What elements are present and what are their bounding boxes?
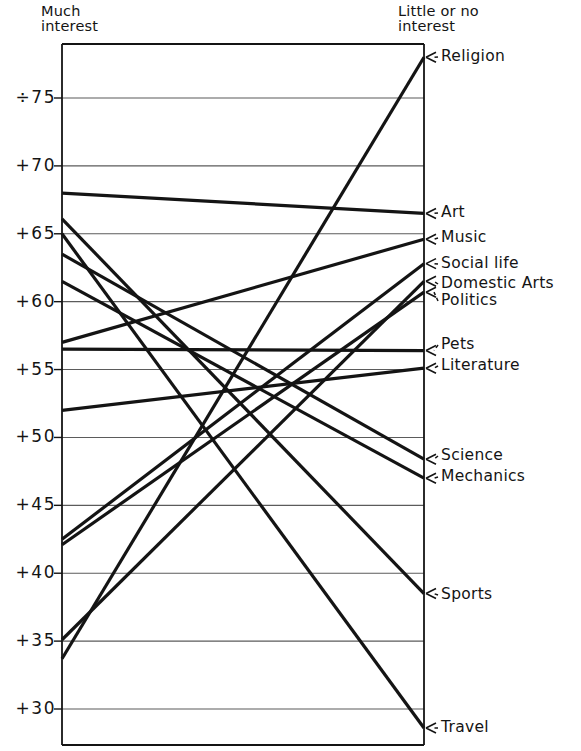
series-line-social-life — [62, 264, 424, 540]
series-label-religion: Religion — [441, 47, 505, 65]
leader-line — [434, 238, 438, 239]
y-tick-label-30: +30 — [0, 698, 56, 718]
label-leader-arrows-group — [426, 52, 438, 733]
y-tick-label-70: +70 — [0, 155, 56, 175]
series-label-domestic-arts: Domestic Arts — [441, 274, 554, 292]
series-label-literature: Literature — [441, 356, 520, 374]
series-label-mechanics: Mechanics — [441, 467, 525, 485]
leader-arrowhead — [426, 259, 436, 269]
y-tick-label-60: +60 — [0, 291, 56, 311]
parallel-coordinates-plot — [0, 0, 581, 751]
leader-arrowhead — [426, 363, 436, 373]
series-line-mechanics — [62, 281, 424, 478]
leader-arrowhead — [426, 454, 436, 464]
series-label-pets: Pets — [441, 335, 475, 353]
leader-arrowhead — [426, 52, 436, 62]
series-line-sports — [62, 219, 424, 594]
y-tick-label-50: +50 — [0, 426, 56, 446]
leader-arrowhead — [426, 723, 436, 733]
series-line-science — [62, 254, 424, 459]
series-line-domestic-arts — [62, 281, 424, 639]
leader-line — [434, 456, 438, 459]
y-tick-label-45: +45 — [0, 494, 56, 514]
y-tick-label-35: +35 — [0, 630, 56, 650]
series-label-art: Art — [441, 203, 465, 221]
y-tick-label-65: +65 — [0, 223, 56, 243]
series-line-music — [62, 239, 424, 342]
leader-arrowhead — [426, 589, 436, 599]
series-lines-group — [62, 57, 424, 728]
series-line-pets — [62, 349, 424, 350]
leader-arrowhead — [426, 473, 436, 483]
series-label-music: Music — [441, 228, 487, 246]
series-line-politics — [62, 292, 424, 545]
series-line-travel — [62, 234, 424, 728]
leader-line — [434, 477, 438, 478]
y-tick-label-75: ÷75 — [0, 87, 56, 107]
series-label-social-life: Social life — [441, 254, 519, 272]
leader-line — [434, 366, 438, 368]
series-line-art — [62, 193, 424, 213]
leader-arrowhead — [426, 208, 436, 218]
series-label-science: Science — [441, 446, 503, 464]
y-tick-label-40: +40 — [0, 562, 56, 582]
series-label-politics: Politics — [441, 291, 497, 309]
leader-line — [434, 281, 438, 284]
y-tick-label-55: +55 — [0, 359, 56, 379]
leader-arrowhead — [426, 234, 436, 244]
chart-canvas: Much interest Little or no interest +30+… — [0, 0, 581, 751]
leader-arrowhead — [426, 276, 436, 286]
series-label-sports: Sports — [441, 585, 493, 603]
series-label-travel: Travel — [441, 718, 489, 736]
leader-line — [434, 594, 438, 595]
